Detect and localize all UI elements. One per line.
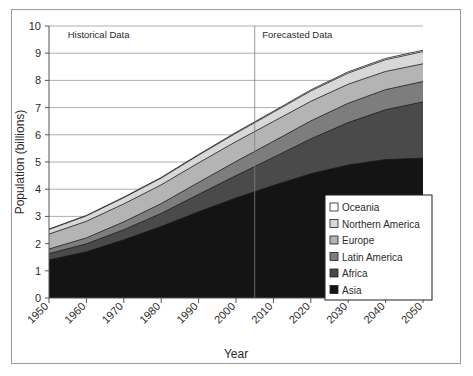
- x-tick-label: 1990: [174, 300, 200, 326]
- y-axis-title: Population (billions): [13, 110, 27, 215]
- x-tick-label: 2050: [399, 300, 425, 326]
- legend-label-africa: Africa: [342, 268, 368, 279]
- region-annotations: Historical DataForecasted Data: [68, 29, 333, 40]
- x-tick-labels: 1950196019701980199020002010202020302040…: [25, 298, 425, 326]
- y-tick-label: 10: [29, 20, 41, 32]
- y-tick-label: 9: [35, 47, 41, 59]
- legend-swatch-northern-america: [330, 220, 338, 228]
- y-tick-label: 2: [35, 238, 41, 250]
- x-tick-label: 1980: [137, 300, 163, 326]
- population-stacked-area-chart: 012345678910 195019601970198019902000201…: [12, 10, 460, 363]
- legend-label-oceania: Oceania: [342, 202, 380, 213]
- y-tick-label: 4: [35, 183, 41, 195]
- x-tick-label: 2010: [249, 300, 275, 326]
- x-tick-label: 1950: [25, 300, 51, 326]
- legend-swatch-oceania: [330, 203, 338, 211]
- chart-frame: 012345678910 195019601970198019902000201…: [11, 9, 461, 364]
- legend-swatch-asia: [330, 286, 338, 294]
- y-tick-label: 1: [35, 265, 41, 277]
- chart-legend: OceaniaNorthern AmericaEuropeLatin Ameri…: [325, 195, 432, 300]
- y-tick-label: 5: [35, 156, 41, 168]
- y-tick-label: 8: [35, 74, 41, 86]
- legend-label-latin-america: Latin America: [342, 252, 403, 263]
- x-tick-label: 2040: [361, 300, 387, 326]
- legend-swatch-africa: [330, 269, 338, 277]
- x-axis-title: Year: [224, 347, 248, 361]
- y-tick-labels: 012345678910: [29, 20, 49, 304]
- legend-swatch-europe: [330, 236, 338, 244]
- x-tick-label: 2030: [324, 300, 350, 326]
- x-tick-label: 1970: [99, 300, 125, 326]
- x-tick-label: 1960: [62, 300, 88, 326]
- x-tick-label: 2000: [212, 300, 238, 326]
- legend-label-europe: Europe: [342, 235, 375, 246]
- legend-swatch-latin-america: [330, 253, 338, 261]
- legend-label-asia: Asia: [342, 285, 362, 296]
- y-tick-label: 7: [35, 102, 41, 114]
- x-tick-label: 2020: [286, 300, 312, 326]
- plot-annotation: Historical Data: [68, 29, 130, 40]
- legend-label-northern-america: Northern America: [342, 219, 420, 230]
- y-tick-label: 3: [35, 210, 41, 222]
- y-tick-label: 6: [35, 129, 41, 141]
- plot-annotation: Forecasted Data: [262, 29, 333, 40]
